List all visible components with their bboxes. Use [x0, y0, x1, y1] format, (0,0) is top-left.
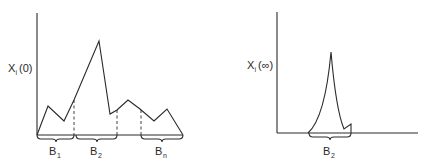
brace-b2	[76, 135, 117, 142]
label-bn: B n	[155, 145, 167, 159]
initial-distribution-curve	[37, 41, 183, 135]
right-panel: X i (∞) B 2	[247, 12, 418, 159]
svg-text:2: 2	[331, 152, 335, 159]
brace-b2-right	[309, 133, 351, 140]
left-y-label-sub: i	[16, 69, 18, 76]
diagram-canvas: X i (0) B 1 B 2 B n	[0, 0, 437, 165]
label-b2: B 2	[90, 145, 102, 159]
svg-text:B: B	[155, 145, 162, 157]
svg-text:2: 2	[98, 152, 102, 159]
left-panel: X i (0) B 1 B 2 B n	[8, 13, 183, 159]
left-y-label: X i (0)	[8, 62, 32, 76]
label-b2-right: B 2	[323, 145, 335, 159]
asymptotic-distribution-curve	[308, 52, 351, 133]
right-y-label-arg: (∞)	[258, 59, 273, 71]
svg-text:1: 1	[57, 152, 61, 159]
brace-bn	[141, 135, 183, 142]
svg-text:n: n	[163, 152, 167, 159]
label-b1: B 1	[49, 145, 61, 159]
svg-text:B: B	[323, 145, 330, 157]
svg-text:B: B	[49, 145, 56, 157]
left-y-label-arg: (0)	[19, 62, 32, 74]
brace-b1	[37, 135, 74, 142]
right-y-label-sub: i	[255, 66, 257, 73]
svg-text:B: B	[90, 145, 97, 157]
right-y-label: X i (∞)	[247, 59, 273, 73]
